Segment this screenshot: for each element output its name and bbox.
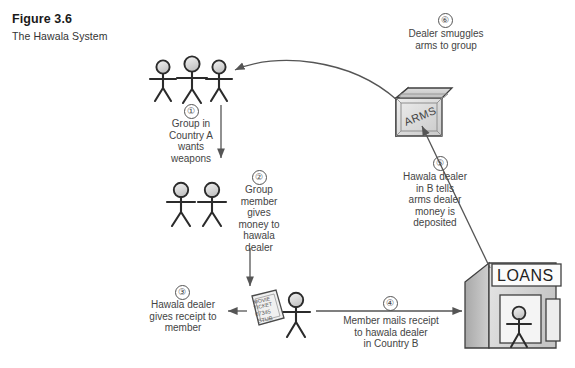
step-marker-3: ③ [172,285,192,300]
step-marker-2: ② [249,170,269,185]
step-caption-4: Member mails receipt to hawala dealer in… [325,315,457,350]
member-figure [282,293,310,337]
figure-canvas: Figure 3.6 The Hawala System [0,0,575,368]
group-figures [150,56,232,103]
step-marker-6: ⑥ [435,13,455,28]
step-caption-6: Dealer smuggles arms to group [385,28,507,51]
step-marker-5: ⑤ [430,156,450,171]
step-caption-5: Hawala dealer in B tells arms dealer mon… [385,171,485,229]
arrow-step-6 [235,60,397,100]
receipt-ticket-icon: MOVIE TICKET 07345 STUB [252,290,284,325]
loans-building-icon: LOANS [465,263,561,348]
step-marker-1: ① [181,104,201,119]
step-caption-2: Group member gives money to hawala deale… [226,184,292,254]
step-marker-4: ④ [380,296,400,311]
step-caption-3: Hawala dealer gives receipt to member [128,299,238,334]
bank-sign-text: LOANS [497,267,554,284]
step-caption-1: Group in Country A wants weapons [148,118,234,164]
member-pair-figures [167,183,226,226]
